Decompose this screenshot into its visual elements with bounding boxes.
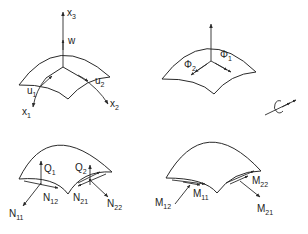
n22-force-arrow <box>90 180 108 197</box>
phi2-rotation-arrow-inner <box>195 64 207 72</box>
panel-moments: M11 M12 M22 M21 <box>155 142 273 216</box>
label-phi1: Φ1 <box>220 49 232 62</box>
label-q1: Q1 <box>44 163 56 176</box>
u2-displacement-arrow <box>78 75 88 81</box>
label-w: w <box>67 35 76 46</box>
panel-rotations: Φ2 Φ1 <box>162 24 296 115</box>
force-origin-point <box>89 179 91 181</box>
label-q2: Q2 <box>75 162 87 175</box>
shell-surface-right-edge <box>214 72 256 94</box>
label-u2: u2 <box>95 75 105 88</box>
label-m11: M11 <box>193 188 209 201</box>
shell-element-diagram: x3 w u1 u2 x1 x2 Φ2 Φ1 <box>0 0 308 234</box>
label-n22: N22 <box>107 198 122 211</box>
rotation-double-arrow-icon <box>265 100 296 115</box>
phi1-rotation-arrow-inner <box>215 63 227 70</box>
label-m22: M22 <box>252 175 268 188</box>
panel-membrane-shear-forces: Q1 Q2 N11 N12 N21 N22 <box>9 145 122 221</box>
label-phi2: Φ2 <box>184 59 196 72</box>
label-x3: x3 <box>67 7 76 20</box>
shell-surface-top-edge <box>19 145 112 179</box>
label-n12: N12 <box>43 192 58 205</box>
label-n11: N11 <box>9 208 24 221</box>
m12-moment-arrow <box>175 185 190 204</box>
label-m21: M21 <box>257 203 273 216</box>
shell-surface-left-edge <box>162 79 214 94</box>
label-n21: N21 <box>73 192 88 205</box>
local-axis-line-2 <box>63 67 82 78</box>
n11-force-arrow <box>23 183 41 206</box>
label-x2: x2 <box>110 98 119 111</box>
panel-coordinates-displacements: x3 w u1 u2 x1 x2 <box>19 7 119 119</box>
local-axis-line-1 <box>46 67 63 78</box>
label-u1: u1 <box>27 85 37 98</box>
label-m12: M12 <box>155 197 171 210</box>
label-x1: x1 <box>22 106 31 119</box>
